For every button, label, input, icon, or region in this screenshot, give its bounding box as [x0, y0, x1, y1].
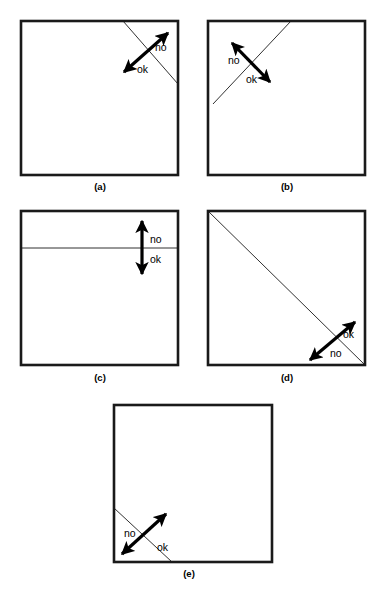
panel-b-label-ok: ok: [246, 73, 258, 85]
panel-c-caption: (c): [94, 372, 106, 383]
fold-direction-diagram: no ok (a) no ok (b) no ok (c) no ok (d: [0, 0, 383, 596]
panel-e-label-no: no: [124, 527, 136, 539]
panel-b-caption: (b): [281, 181, 293, 192]
panel-c: no ok (c): [21, 211, 178, 383]
panel-e: no ok (e): [114, 405, 272, 579]
panel-d-label-ok: ok: [343, 328, 355, 340]
panel-a-label-ok: ok: [137, 63, 149, 75]
panel-a: no ok (a): [21, 21, 178, 192]
panel-c-label-no: no: [150, 233, 162, 245]
panel-d-caption: (d): [281, 372, 293, 383]
panel-a-label-no: no: [155, 41, 167, 53]
figure-root: no ok (a) no ok (b) no ok (c) no ok (d: [0, 0, 383, 596]
panel-e-caption: (e): [183, 568, 195, 579]
panel-b-label-no: no: [228, 54, 240, 66]
panel-e-label-ok: ok: [157, 541, 169, 553]
panel-d-label-no: no: [330, 347, 342, 359]
panel-b: no ok (b): [208, 21, 365, 192]
panel-c-label-ok: ok: [150, 253, 162, 265]
panel-a-caption: (a): [94, 181, 106, 192]
panel-d: no ok (d): [208, 211, 365, 383]
